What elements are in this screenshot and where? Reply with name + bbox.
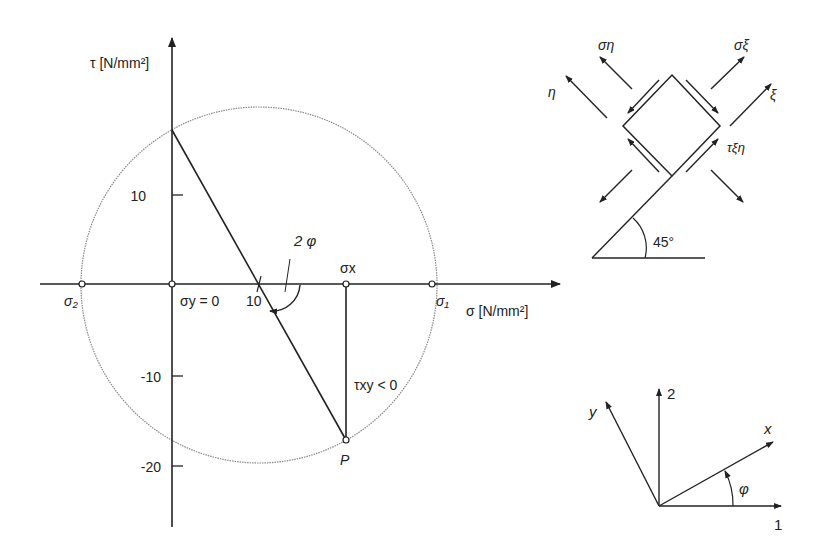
eta-label: η [548, 84, 556, 100]
sigma1-point [429, 281, 435, 287]
axis-y-label: y [588, 403, 598, 420]
sigma-xi-label: σξ [734, 37, 749, 53]
angle-label-2phi: 2 φ [293, 232, 317, 249]
shear-arrow-top-right [686, 80, 718, 113]
point-p-label: P [340, 452, 350, 468]
sigma-x-label: σx [340, 260, 356, 276]
coordinate-axes-diagram: y 2 x φ 1 [588, 385, 782, 533]
tau-xi-eta-label: τξη [727, 140, 745, 155]
tau-axis-label: τ [N/mm²] [90, 55, 149, 71]
sigma-eta-arrow [600, 57, 632, 89]
tau-xy-label: τxy < 0 [354, 377, 397, 393]
phi-angle-arc [725, 471, 733, 506]
sigma2-point [79, 281, 85, 287]
sigma-xi-arrow [711, 57, 744, 89]
axis-y [606, 402, 659, 506]
sigma1-label: σ₁ [436, 293, 449, 309]
axis-1-label: 1 [774, 516, 782, 533]
point-p [343, 437, 349, 443]
diameter-line [172, 130, 346, 440]
angle-45-label: 45° [653, 234, 674, 250]
mohr-diagram: τ [N/mm²] σ [N/mm²] 10 -10 -20 10 σ₂ σ₁ … [40, 38, 560, 527]
sigma2-label: σ₂ [64, 293, 78, 309]
angle-leader [285, 259, 290, 292]
stress-element-square [623, 75, 720, 176]
sigma-eta-label: ση [598, 37, 614, 53]
sigma-y-label: σy = 0 [180, 293, 220, 309]
tau-tick-label-minus20: -20 [141, 459, 161, 475]
sigma-axis-label: σ [N/mm²] [466, 303, 528, 319]
xi-label: ξ [770, 87, 777, 103]
sigma-se-arrow [711, 170, 743, 202]
tau-tick-label-minus10: -10 [141, 369, 161, 385]
sigma-sw-arrow [600, 170, 632, 202]
axis-x [659, 442, 773, 506]
sigma-y-point [169, 281, 175, 287]
angle-arc-45 [633, 218, 646, 258]
sigma-x-point [343, 281, 349, 287]
xi-axis-arrow [730, 84, 771, 126]
tau-tick-label-10: 10 [130, 188, 146, 204]
shear-arrow-bottom-left [628, 139, 659, 172]
shear-arrow-top-left [628, 80, 659, 113]
mohr-circle-figure: τ [N/mm²] σ [N/mm²] 10 -10 -20 10 σ₂ σ₁ … [0, 0, 820, 557]
sigma-tick-label-10: 10 [246, 293, 262, 309]
eta-axis-arrow [566, 76, 607, 118]
axis-2-label: 2 [667, 385, 675, 402]
stress-element-diagram: ση σξ η ξ τξη 45° [548, 37, 777, 258]
phi-label: φ [739, 480, 749, 497]
axis-x-label: x [763, 420, 772, 437]
